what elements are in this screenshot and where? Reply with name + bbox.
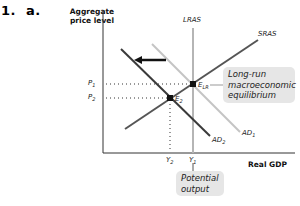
elr-point [190,81,196,87]
ad1-label: AD1 [242,129,255,138]
lras-label: LRAS [183,16,201,24]
ad1-label-sub: 1 [252,132,255,138]
diagram-canvas [0,0,300,206]
p1-tick-label: P1 [88,79,95,88]
elr-label-sub: LR [202,84,208,90]
ad2-label-text: AD [212,136,222,144]
ad1-label-text: AD [242,129,252,137]
ad2-label: AD2 [212,136,225,145]
p2-sub: 2 [92,96,95,102]
p2-tick-label: P2 [88,93,95,102]
x-axis-label: Real GDP [248,160,287,169]
ad2-label-sub: 2 [222,139,225,145]
y1-sub: 1 [193,159,196,165]
e2-label: E2 [175,95,183,104]
y2-sub: 2 [170,159,173,165]
potential-output-callout: Potential output [176,171,224,196]
elr-label: ELR [198,81,209,90]
y1-tick-label: Y1 [189,156,196,165]
p1-sub: 1 [92,82,95,88]
y2-tick-label: Y2 [166,156,173,165]
e2-label-sub: 2 [179,98,182,104]
long-run-equilibrium-callout: Long-run macroeconomic equilibrium [223,67,295,103]
e2-point [167,95,173,101]
sras-label: SRAS [258,30,277,38]
